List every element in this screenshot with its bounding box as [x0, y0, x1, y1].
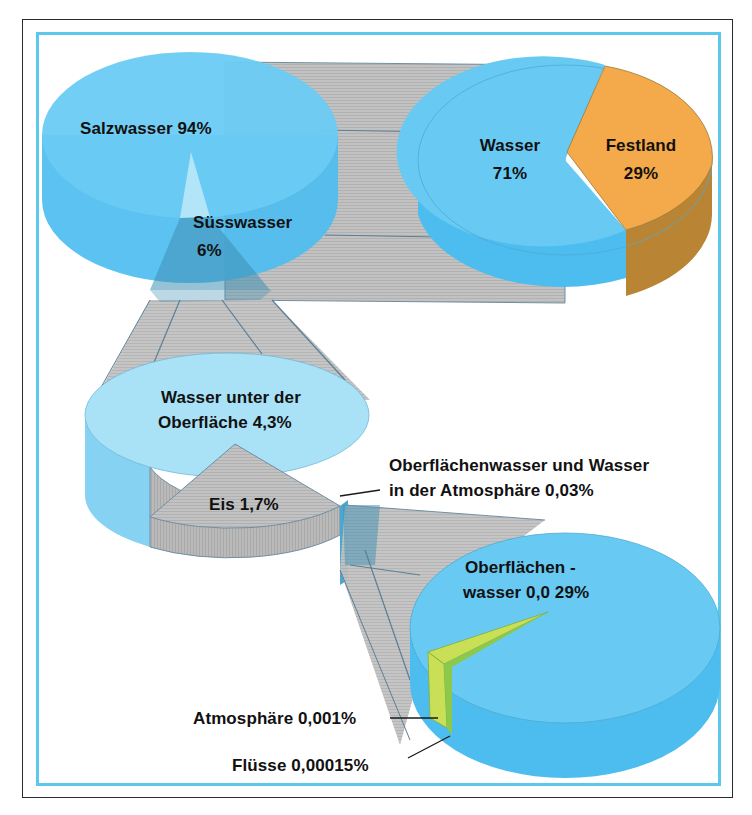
label-salzwasser: Salzwasser 94% [80, 118, 212, 140]
label-oberflaeche-atmo-1: Oberflächenwasser und Wasser [389, 455, 649, 477]
label-unter-oberflaeche-2: Oberfläche 4,3% [158, 412, 292, 434]
pie-salzwasser-suesswasser [42, 52, 338, 290]
label-wasser-name: Wasser [470, 135, 550, 157]
label-suesswasser-value: 6% [197, 240, 222, 262]
label-oberflaechenwasser-2: wasser 0,0 29% [463, 582, 589, 604]
chart-canvas: Salzwasser 94% Süsswasser 6% Wasser 71% … [0, 0, 752, 815]
label-oberflaeche-atmo-2: in der Atmosphäre 0,03% [389, 480, 594, 502]
label-wasser-value: 71% [470, 163, 550, 185]
label-fluesse: Flüsse 0,00015% [232, 755, 369, 777]
label-oberflaechenwasser-1: Oberflächen - [465, 557, 576, 579]
label-eis: Eis 1,7% [209, 494, 279, 516]
label-atmosphaere: Atmosphäre 0,001% [193, 708, 356, 730]
label-unter-oberflaeche-1: Wasser unter der [161, 387, 301, 409]
label-festland-value: 29% [596, 163, 686, 185]
label-suesswasser-name: Süsswasser [193, 212, 292, 234]
label-festland-name: Festland [596, 135, 686, 157]
